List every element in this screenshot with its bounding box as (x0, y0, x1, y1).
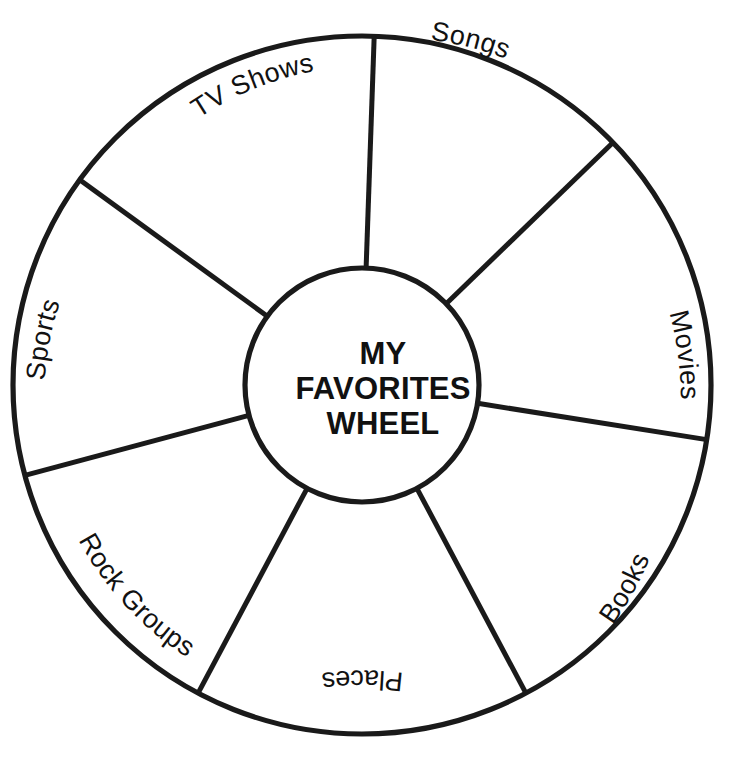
hub-title-line-3: WHEEL (327, 406, 440, 441)
segment-label-places: Places (320, 664, 405, 697)
hub-title-line-1: MY (360, 336, 407, 371)
hub-title-line-2: FAVORITES (295, 371, 470, 406)
favorites-wheel-diagram: MY FAVORITES WHEEL Songs TV Shows Sports… (0, 0, 747, 776)
segment-label-places-text: Places (320, 664, 405, 697)
wheel-canvas: MY FAVORITES WHEEL Songs TV Shows Sports… (0, 0, 747, 776)
